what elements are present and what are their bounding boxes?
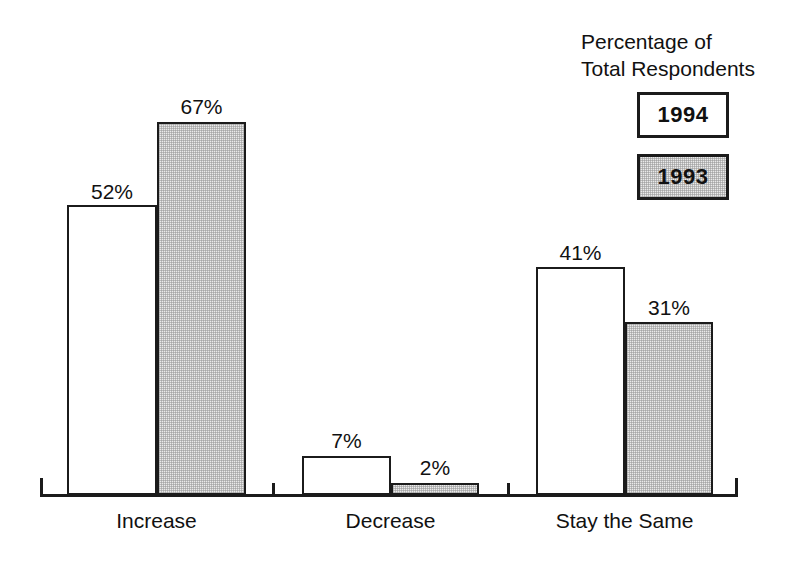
bar-increase-1993 <box>157 122 246 495</box>
value-label-decrease-1993: 2% <box>391 456 479 480</box>
bar-chart: 52% 67% 7% 2% 41% 31% Increase Decrease … <box>0 0 798 566</box>
bar-stay-the-same-1993 <box>625 322 713 495</box>
bar-stay-the-same-1994 <box>536 267 625 495</box>
value-label-stay-the-same-1994: 41% <box>536 241 625 265</box>
axis-tick-start <box>40 478 43 495</box>
legend-title: Percentage of Total Respondents <box>581 28 796 82</box>
value-label-increase-1994: 52% <box>67 180 157 204</box>
category-label-stay-the-same: Stay the Same <box>536 508 713 534</box>
legend-items: 1994 1993 <box>581 92 796 200</box>
value-label-stay-the-same-1993: 31% <box>625 296 713 320</box>
legend-item-1993: 1993 <box>637 154 729 200</box>
category-label-increase: Increase <box>67 508 246 534</box>
legend: Percentage of Total Respondents 1994 199… <box>581 28 796 200</box>
axis-tick-end <box>735 478 738 495</box>
category-label-decrease: Decrease <box>302 508 479 534</box>
value-label-decrease-1994: 7% <box>302 429 391 453</box>
x-axis-line <box>40 494 738 497</box>
axis-tick-divider-2 <box>507 483 510 495</box>
bar-increase-1994 <box>67 205 157 495</box>
legend-item-1994: 1994 <box>637 92 729 138</box>
legend-item-1993-label: 1993 <box>658 164 709 190</box>
bar-decrease-1994 <box>302 456 391 495</box>
legend-item-1994-label: 1994 <box>658 102 709 128</box>
axis-tick-divider-1 <box>272 483 275 495</box>
value-label-increase-1993: 67% <box>157 95 246 119</box>
